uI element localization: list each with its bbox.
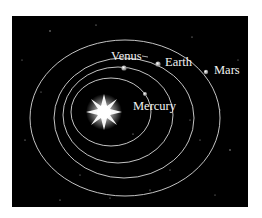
planet-mars-icon — [204, 70, 208, 74]
label-mercury: Mercury — [133, 100, 176, 113]
label-mars: Mars — [214, 64, 240, 77]
planet-mercury-icon — [143, 92, 147, 96]
label-venus: Venus — [111, 50, 142, 63]
label-earth: Earth — [165, 56, 192, 69]
planet-venus-icon — [121, 65, 126, 70]
orbit-diagram — [0, 0, 262, 218]
planet-earth-icon — [155, 61, 160, 66]
sun-icon — [86, 94, 122, 130]
